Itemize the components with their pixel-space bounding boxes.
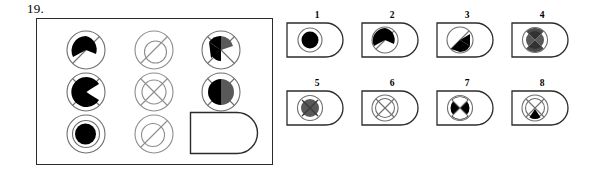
option-5-label: 5 (286, 78, 348, 88)
option-1[interactable]: 1 (286, 10, 352, 66)
option-2[interactable]: 2 (361, 10, 427, 66)
option-6-label: 6 (361, 78, 423, 88)
matrix-cell-r3c2 (131, 111, 177, 157)
matrix-cell-r2c1 (63, 69, 109, 115)
matrix-cell-r2c2 (131, 69, 177, 115)
option-8-label: 8 (511, 78, 573, 88)
option-7-shape (436, 90, 502, 126)
options-panel: 1 2 (286, 10, 606, 170)
matrix-answer-slot[interactable] (189, 111, 259, 155)
option-7-label: 7 (436, 78, 498, 88)
option-4-shape (511, 22, 577, 58)
option-4[interactable]: 4 (511, 10, 577, 66)
option-7[interactable]: 7 (436, 78, 502, 134)
option-2-shape (361, 22, 427, 58)
matrix-cell-r1c2 (131, 27, 177, 73)
question-number: 19. (27, 2, 44, 15)
matrix-cell-r2c3 (198, 69, 244, 115)
matrix-cell-r1c1 (63, 27, 109, 73)
option-8-shape (511, 90, 577, 126)
option-8[interactable]: 8 (511, 78, 577, 134)
option-5-shape (286, 90, 352, 126)
option-5[interactable]: 5 (286, 78, 352, 134)
option-2-label: 2 (361, 10, 423, 20)
option-3-label: 3 (436, 10, 498, 20)
option-3-shape (436, 22, 502, 58)
option-1-shape (286, 22, 352, 58)
option-6[interactable]: 6 (361, 78, 427, 134)
matrix-cell-r1c3 (198, 27, 244, 73)
matrix-cell-r3c1 (63, 111, 109, 157)
option-3[interactable]: 3 (436, 10, 502, 66)
option-4-label: 4 (511, 10, 573, 20)
question-panel: 19. (27, 2, 277, 174)
option-1-label: 1 (286, 10, 348, 20)
option-6-shape (361, 90, 427, 126)
matrix-grid (36, 18, 273, 165)
item-root: 19. (0, 0, 609, 182)
